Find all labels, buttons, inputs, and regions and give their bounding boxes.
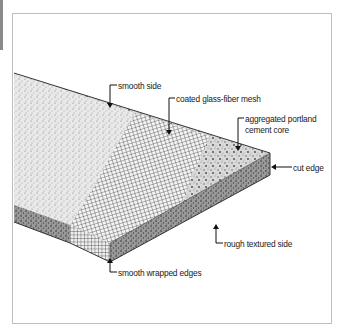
- label-rough-textured-side: rough textured side: [224, 238, 292, 249]
- label-smooth-wrapped-edges: smooth wrapped edges: [118, 267, 201, 278]
- label-coated-glass-fiber-mesh: coated glass-fiber mesh: [176, 93, 261, 104]
- backer-board-illustration: [0, 0, 342, 334]
- label-cut-edge: cut edge: [293, 162, 324, 173]
- label-cement-core-line2: cement core: [245, 124, 289, 135]
- label-cement-core-line1: aggregated portland: [245, 113, 317, 124]
- label-smooth-side: smooth side: [118, 80, 161, 91]
